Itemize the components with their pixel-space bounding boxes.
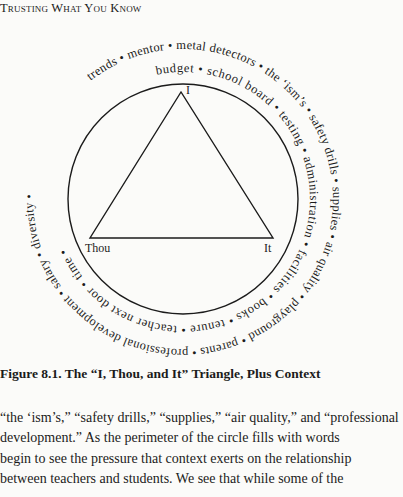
triangle: [90, 92, 273, 238]
body-line: begin to see the pressure that context e…: [0, 449, 403, 469]
body-line: between teachers and students. We see th…: [0, 469, 403, 489]
body-line: “the ‘ism’s,” “safety drills,” “supplies…: [0, 408, 403, 428]
vertex-it-label: It: [264, 241, 272, 255]
body-paragraph: “the ‘ism’s,” “safety drills,” “supplies…: [0, 408, 403, 489]
i-thou-it-figure: I Thou It trends • mentor • metal detect…: [0, 0, 349, 360]
body-line: development.” As the perimeter of the ci…: [0, 428, 403, 448]
figure-caption: Figure 8.1. The “I, Thou, and It” Triang…: [0, 366, 321, 382]
vertex-thou-label: Thou: [85, 241, 110, 255]
vertex-i-label: I: [186, 83, 190, 97]
context-circle: [68, 84, 298, 314]
